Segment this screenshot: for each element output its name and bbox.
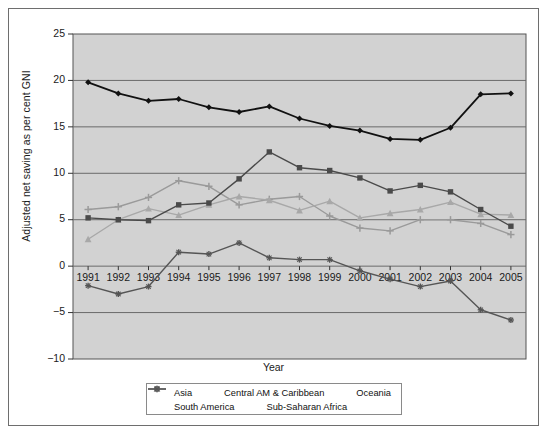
x-tick-label: 1995 — [197, 271, 221, 283]
x-tick-label: 2004 — [469, 271, 493, 283]
y-tick-label: 10 — [53, 166, 65, 178]
data-point — [267, 149, 272, 154]
legend-label-sub-saharan-africa: Sub-Saharan Africa — [266, 402, 347, 412]
data-point — [508, 224, 513, 229]
data-point — [206, 251, 212, 257]
x-tick-label: 1999 — [318, 271, 342, 283]
y-tick-label: −5 — [53, 305, 65, 317]
data-point — [85, 283, 91, 289]
data-point — [85, 215, 90, 220]
data-point — [508, 317, 514, 323]
data-point — [146, 218, 151, 223]
data-point — [357, 268, 363, 274]
data-point — [327, 257, 333, 263]
data-point — [357, 175, 362, 180]
data-point — [417, 284, 423, 290]
y-axis-title: Adjusted net saving as per cent GNI — [20, 46, 32, 266]
legend-row: South America Sub-Saharan Africa — [151, 400, 397, 414]
x-tick-label: 1992 — [107, 271, 131, 283]
y-tick-label: 15 — [53, 120, 65, 132]
data-point — [236, 240, 242, 246]
x-axis-title: Year — [0, 361, 547, 373]
x-tick-label: 1998 — [288, 271, 312, 283]
figure-canvas: 2520151050−5−101991199219931994199519961… — [0, 0, 547, 436]
data-point — [297, 257, 303, 263]
data-point — [327, 168, 332, 173]
chart-legend: Asia Central AM & Caribbean Oceania Sout… — [146, 383, 402, 415]
legend-item-south-america[interactable]: South America — [151, 402, 234, 412]
legend-label-oceania: Oceania — [356, 388, 391, 398]
data-point — [418, 183, 423, 188]
legend-item-oceania[interactable]: Oceania — [333, 388, 391, 398]
data-point — [478, 307, 484, 313]
data-point — [176, 202, 181, 207]
data-point — [146, 284, 152, 290]
legend-label-central-am-caribbean: Central AM & Caribbean — [224, 388, 324, 398]
data-point — [115, 291, 121, 297]
x-tick-label: 1994 — [167, 271, 191, 283]
data-point — [387, 276, 393, 282]
legend-item-sub-saharan-africa[interactable]: Sub-Saharan Africa — [243, 402, 347, 412]
y-tick-label: 25 — [53, 27, 65, 39]
legend-row: Asia Central AM & Caribbean Oceania — [151, 386, 397, 400]
legend-swatch-central-am-caribbean — [201, 388, 221, 398]
x-tick-label: 1996 — [227, 271, 251, 283]
data-point — [206, 200, 211, 205]
x-tick-label: 2005 — [499, 271, 523, 283]
legend-swatch-oceania — [333, 388, 353, 398]
legend-swatch-sub-saharan-africa — [243, 402, 263, 412]
data-point — [236, 176, 241, 181]
data-point — [297, 165, 302, 170]
y-tick-label: 0 — [59, 259, 65, 271]
legend-item-central-am-caribbean[interactable]: Central AM & Caribbean — [201, 388, 324, 398]
legend-swatch-south-america — [151, 402, 171, 412]
data-point — [154, 386, 160, 392]
legend-label-south-america: South America — [174, 402, 234, 412]
data-point — [116, 217, 121, 222]
data-point — [266, 255, 272, 261]
y-tick-label: 5 — [59, 212, 65, 224]
data-point — [448, 189, 453, 194]
data-point — [448, 278, 454, 284]
x-tick-label: 1997 — [258, 271, 282, 283]
x-tick-label: 1991 — [76, 271, 100, 283]
y-tick-label: 20 — [53, 73, 65, 85]
legend-label-asia: Asia — [174, 388, 192, 398]
x-tick-label: 2002 — [409, 271, 433, 283]
data-point — [176, 249, 182, 255]
data-point — [387, 188, 392, 193]
data-point — [478, 207, 483, 212]
